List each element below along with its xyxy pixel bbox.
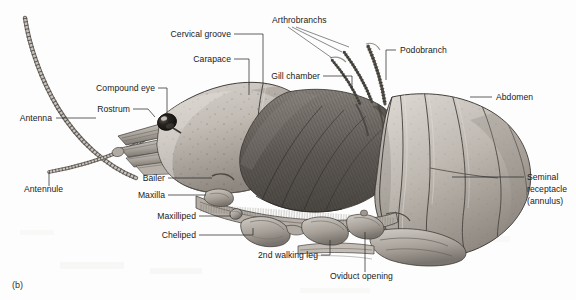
label-rostrum: Rostrum [97,104,130,114]
panel-label: (b) [12,280,23,290]
label-carapace: Carapace [193,54,231,64]
label-podobranch: Podobranch [400,45,447,55]
label-arthrobranchs: Arthrobranchs [272,15,327,25]
label-2nd-walking-leg: 2nd walking leg [258,250,318,260]
label-bailer: Bailer [143,173,165,183]
label-antennule: Antennule [24,184,63,194]
figure-panel: Antenna Antennule Rostrum Compound eye C… [0,0,576,300]
oviduct-opening-pore [360,210,367,216]
label-seminal-receptacle-line3: (annulus) [527,196,563,206]
label-antenna: Antenna [20,113,53,123]
label-maxilla: Maxilla [138,190,165,200]
label-seminal-receptacle-line2: receptacle [527,184,567,194]
label-oviduct-opening: Oviduct opening [330,271,393,281]
label-cervical-groove: Cervical groove [171,29,232,39]
anatomy-illustration: Antenna Antennule Rostrum Compound eye C… [0,0,576,300]
label-seminal-receptacle-line1: Seminal [527,172,558,182]
label-maxilliped: Maxilliped [157,211,196,221]
label-compound-eye: Compound eye [96,83,155,93]
label-cheliped: Cheliped [162,230,196,240]
label-abdomen: Abdomen [496,92,533,102]
label-gill-chamber: Gill chamber [271,71,320,81]
